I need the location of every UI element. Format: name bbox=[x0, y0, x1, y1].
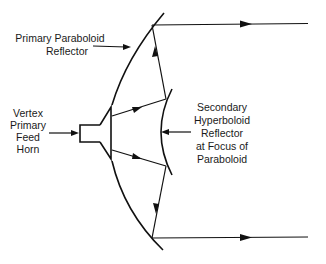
label-feed-line2: Primary bbox=[10, 119, 47, 131]
label-feed-line1: Vertex bbox=[13, 107, 44, 119]
feed-horn bbox=[80, 107, 111, 159]
label-secondary-line5: Paraboloid bbox=[197, 153, 247, 165]
arrowhead-icon bbox=[132, 153, 142, 159]
label-secondary-line4: at Focus of bbox=[196, 140, 248, 152]
arrowhead-icon bbox=[240, 234, 252, 241]
primary-reflector-upper bbox=[112, 13, 164, 105]
label-primary-line2: Reflector bbox=[46, 45, 89, 57]
label-feed-line3: Feed bbox=[16, 131, 40, 143]
label-secondary-line1: Secondary bbox=[197, 101, 248, 113]
ray-output-bottom bbox=[152, 237, 308, 238]
ray-output-top bbox=[152, 24, 308, 26]
label-secondary-line3: Reflector bbox=[201, 127, 244, 139]
arrowhead-icon bbox=[161, 129, 169, 135]
arrowhead-icon bbox=[123, 44, 131, 50]
cassegrain-antenna-diagram: Primary Paraboloid Reflector Vertex Prim… bbox=[0, 0, 326, 264]
label-primary-line1: Primary Paraboloid bbox=[15, 32, 104, 44]
pointer-primary bbox=[93, 46, 126, 47]
arrowhead-icon bbox=[71, 130, 79, 136]
label-feed-line4: Horn bbox=[17, 143, 40, 155]
arrowhead-icon bbox=[132, 107, 142, 113]
arrowhead-icon bbox=[240, 21, 252, 28]
ray-secondary-to-primary-upper bbox=[152, 25, 166, 99]
label-secondary-line2: Hyperboloid bbox=[194, 114, 250, 126]
ray-secondary-to-primary-lower bbox=[152, 166, 166, 238]
